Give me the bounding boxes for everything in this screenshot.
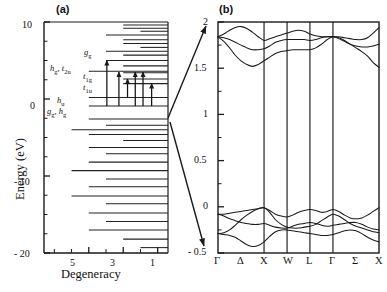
panel-a-xtick-5: 5 [70, 258, 75, 268]
panel-b-ytick-1: 1 [203, 109, 208, 119]
panel-b-tag: (b) [219, 4, 233, 15]
figure-canvas: (a) Energy (eV) Degeneracy 10 0 - 10 - 2… [0, 0, 387, 292]
orbital-label-gg-hg: gg, hg [47, 107, 66, 118]
panel-b-ytick-1p5: 1.5 [194, 63, 207, 73]
panel-a-xtick-1: 1 [150, 258, 155, 268]
panel-b-kpoint-2: X [260, 256, 268, 267]
panel-b-ytick-neg0p5: - 0.5 [188, 247, 206, 257]
panel-a-xlabel: Degeneracy [61, 268, 121, 281]
panel-b-kpoint-0: Γ [214, 256, 220, 267]
orbital-label-t1u: t1u [83, 83, 92, 94]
panel-b-kpoint-3: W [283, 256, 293, 267]
panel-b-kpoint-7: X [375, 256, 383, 267]
panel-b-kpoint-1: Δ [237, 256, 244, 267]
panel-a-xtick-3: 3 [110, 258, 115, 268]
panel-b-kpoint-5: Γ [329, 256, 335, 267]
orbital-label-hg-t2u: hg, t2u [50, 64, 71, 75]
panel-a-ytick-0: 0 [30, 101, 35, 111]
orbital-label-gg-upper: gg [84, 48, 92, 59]
panel-b-ytick-0p5: 0.5 [194, 155, 207, 165]
panel-connector-arrows [168, 26, 206, 246]
panel-a-plot [44, 22, 168, 253]
panel-b-plot [218, 22, 379, 253]
panel-a-ytick-neg20: - 20 [14, 249, 30, 259]
panel-b-ytick-0: 0 [203, 201, 208, 211]
panel-b-kpoint-6: Σ [352, 256, 358, 267]
panel-a-ytick-neg10: - 10 [14, 177, 30, 187]
panel-a-tag: (a) [56, 4, 69, 15]
panel-a-ylabel: Energy (eV) [14, 138, 27, 200]
panel-b-kpoint-4: L [306, 256, 312, 267]
panel-a-ytick-10: 10 [22, 20, 32, 30]
panel-b-ytick-2: 2 [203, 17, 208, 27]
